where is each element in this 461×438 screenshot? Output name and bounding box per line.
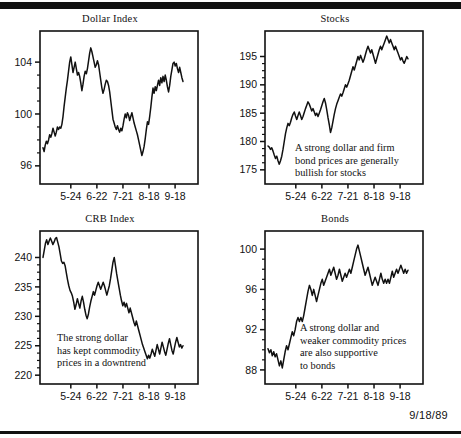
- svg-text:9-18: 9-18: [390, 190, 411, 202]
- panel-dollar-index: Dollar Index 961001045-246-227-218-189-1…: [10, 12, 210, 212]
- panel-title-stocks: Stocks: [235, 12, 435, 25]
- svg-text:7-21: 7-21: [337, 190, 358, 202]
- plot-stocks: 1751801851901955-246-227-218-189-18: [235, 26, 435, 212]
- chart-svg-stocks: 1751801851901955-246-227-218-189-18: [235, 26, 435, 212]
- svg-text:6-22: 6-22: [311, 190, 332, 202]
- plot-bonds: 8892961005-246-227-218-189-18: [235, 226, 435, 412]
- svg-text:92: 92: [245, 323, 257, 335]
- svg-text:100: 100: [14, 108, 32, 120]
- annotation-crb-index: The strong dollar has kept commodity pri…: [57, 332, 146, 370]
- svg-text:8-18: 8-18: [139, 190, 160, 202]
- svg-text:5-24: 5-24: [60, 190, 81, 202]
- svg-text:5-24: 5-24: [285, 390, 306, 402]
- plot-crb-index: 2202252302352405-246-227-218-189-18: [10, 226, 210, 412]
- bottom-rule: [0, 431, 461, 434]
- svg-text:8-18: 8-18: [364, 190, 385, 202]
- chart-svg-dollar-index: 961001045-246-227-218-189-18: [10, 26, 210, 212]
- annotation-stocks: A strong dollar and firm bond prices are…: [295, 142, 399, 180]
- panel-crb-index: CRB Index 2202252302352405-246-227-218-1…: [10, 212, 210, 412]
- panel-title-bonds: Bonds: [235, 212, 435, 225]
- svg-text:96: 96: [245, 283, 257, 295]
- svg-text:5-24: 5-24: [285, 190, 306, 202]
- svg-text:185: 185: [239, 107, 257, 119]
- svg-text:96: 96: [20, 159, 32, 171]
- annotation-bonds: A strong dollar and weaker commodity pri…: [300, 322, 406, 372]
- svg-text:9-18: 9-18: [390, 390, 411, 402]
- svg-text:175: 175: [239, 163, 257, 175]
- panel-stocks: Stocks 1751801851901955-246-227-218-189-…: [235, 12, 435, 212]
- svg-text:88: 88: [245, 364, 257, 376]
- svg-text:104: 104: [14, 56, 32, 68]
- svg-text:240: 240: [14, 251, 32, 263]
- plot-dollar-index: 961001045-246-227-218-189-18: [10, 26, 210, 212]
- svg-text:6-22: 6-22: [311, 390, 332, 402]
- svg-text:225: 225: [14, 339, 32, 351]
- top-rule: [0, 2, 461, 9]
- svg-text:220: 220: [14, 369, 32, 381]
- svg-text:6-22: 6-22: [86, 390, 107, 402]
- svg-text:7-21: 7-21: [112, 190, 133, 202]
- svg-text:8-18: 8-18: [364, 390, 385, 402]
- svg-text:190: 190: [239, 78, 257, 90]
- chart-svg-bonds: 8892961005-246-227-218-189-18: [235, 226, 435, 412]
- figure-page: Dollar Index 961001045-246-227-218-189-1…: [0, 0, 461, 438]
- svg-text:6-22: 6-22: [86, 190, 107, 202]
- panel-title-dollar-index: Dollar Index: [10, 12, 210, 25]
- chart-svg-crb-index: 2202252302352405-246-227-218-189-18: [10, 226, 210, 412]
- svg-text:195: 195: [239, 50, 257, 62]
- svg-text:7-21: 7-21: [337, 390, 358, 402]
- svg-text:230: 230: [14, 310, 32, 322]
- panel-bonds: Bonds 8892961005-246-227-218-189-18 A st…: [235, 212, 435, 412]
- svg-text:100: 100: [239, 243, 257, 255]
- svg-text:5-24: 5-24: [60, 390, 81, 402]
- svg-text:9-18: 9-18: [165, 390, 186, 402]
- panel-title-crb-index: CRB Index: [10, 212, 210, 225]
- datestamp: 9/18/89: [409, 409, 448, 421]
- svg-text:235: 235: [14, 281, 32, 293]
- svg-text:8-18: 8-18: [139, 390, 160, 402]
- svg-text:180: 180: [239, 135, 257, 147]
- svg-text:9-18: 9-18: [165, 190, 186, 202]
- svg-text:7-21: 7-21: [112, 390, 133, 402]
